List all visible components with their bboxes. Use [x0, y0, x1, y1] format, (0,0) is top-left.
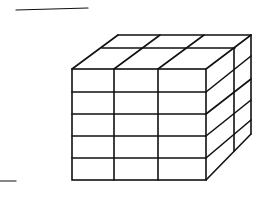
- cube-prism-diagram: [0, 0, 258, 199]
- prism-svg: [0, 0, 258, 199]
- front-face: [72, 69, 206, 180]
- top-face: [72, 35, 251, 69]
- right-face: [206, 35, 251, 180]
- top-answer-line: [16, 8, 88, 10]
